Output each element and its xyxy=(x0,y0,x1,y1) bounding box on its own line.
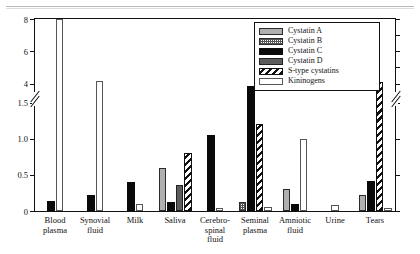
bar-k xyxy=(136,204,144,211)
bar-a xyxy=(159,168,167,211)
y-tick-right xyxy=(396,139,400,140)
legend: Cystatin ACystatin BCystatin CCystatin D… xyxy=(254,22,380,91)
bar-d xyxy=(176,185,184,211)
y-tick-label: 6 xyxy=(24,48,28,57)
bar-s xyxy=(376,82,384,211)
y-tick xyxy=(30,103,34,104)
legend-label: Cystatin B xyxy=(288,37,322,45)
y-tick xyxy=(30,84,34,85)
bar-b xyxy=(239,202,247,211)
x-axis xyxy=(34,211,396,212)
y-tick-right xyxy=(396,211,400,212)
bar-k xyxy=(331,205,339,211)
bar-s xyxy=(256,124,264,211)
legend-label: S-type cystatins xyxy=(288,67,339,75)
y-tick xyxy=(30,175,34,176)
y-tick xyxy=(30,51,34,52)
y-tick-right xyxy=(396,35,400,36)
legend-item: Kininogens xyxy=(259,77,375,87)
bar-k xyxy=(56,19,64,211)
bar-group xyxy=(155,19,195,211)
bar-group xyxy=(195,19,235,211)
y-tick-label: 0.5 xyxy=(17,172,28,181)
y-tick-label: 4 xyxy=(24,80,28,89)
y-axis-right xyxy=(395,18,396,212)
bar-c xyxy=(167,202,175,211)
y-tick-label: 8 xyxy=(24,16,28,25)
bar-c xyxy=(367,181,375,211)
bar-c xyxy=(291,204,299,211)
legend-item: Cystatin C xyxy=(259,47,375,57)
legend-swatch-dotted-check xyxy=(259,38,283,46)
bar-c xyxy=(47,201,55,211)
x-axis-label: Tears xyxy=(345,216,405,226)
chart-figure: 00.51.01.5468 BloodplasmaSynovialfluidMi… xyxy=(0,0,420,254)
bar-k xyxy=(216,208,224,211)
y-tick-right xyxy=(396,103,400,104)
bar-c xyxy=(247,86,255,211)
legend-swatch-solid-gray xyxy=(259,28,283,36)
legend-item: S-type cystatins xyxy=(259,67,375,77)
bar-group xyxy=(35,19,75,211)
legend-swatch-open-white xyxy=(259,78,283,86)
legend-swatch-diagonal-hatch xyxy=(259,68,283,76)
y-tick-label: 1.0 xyxy=(17,135,28,144)
bar-k xyxy=(96,81,104,211)
legend-swatch-solid-black xyxy=(259,48,283,56)
bar-a xyxy=(283,189,291,211)
y-tick-label: 0 xyxy=(24,208,28,217)
y-tick xyxy=(30,139,34,140)
bar-s xyxy=(184,153,192,211)
y-tick-label: 1.5 xyxy=(17,99,28,108)
bar-group xyxy=(115,19,155,211)
y-tick xyxy=(30,19,34,20)
y-tick-right xyxy=(396,51,400,52)
bar-group xyxy=(75,19,115,211)
page-rule-top xyxy=(6,6,414,7)
bar-c xyxy=(87,195,95,211)
bar-k xyxy=(300,139,308,211)
y-tick-right xyxy=(396,175,400,176)
legend-item: Cystatin B xyxy=(259,37,375,47)
legend-item: Cystatin D xyxy=(259,57,375,67)
y-tick xyxy=(30,211,34,212)
legend-label: Cystatin A xyxy=(288,27,322,35)
y-tick-right xyxy=(396,84,400,85)
y-tick-right xyxy=(396,67,400,68)
bar-k xyxy=(264,207,272,211)
legend-swatch-dark-gray xyxy=(259,58,283,66)
bar-a xyxy=(359,195,367,211)
bar-c xyxy=(127,182,135,211)
bar-c xyxy=(207,135,215,211)
legend-label: Cystatin D xyxy=(288,57,322,65)
legend-label: Cystatin C xyxy=(288,47,322,55)
page-rule-bottom xyxy=(6,8,414,9)
legend-label: Kininogens xyxy=(288,77,325,85)
legend-item: Cystatin A xyxy=(259,27,375,37)
bar-k xyxy=(384,208,392,211)
y-tick-right xyxy=(396,19,400,20)
